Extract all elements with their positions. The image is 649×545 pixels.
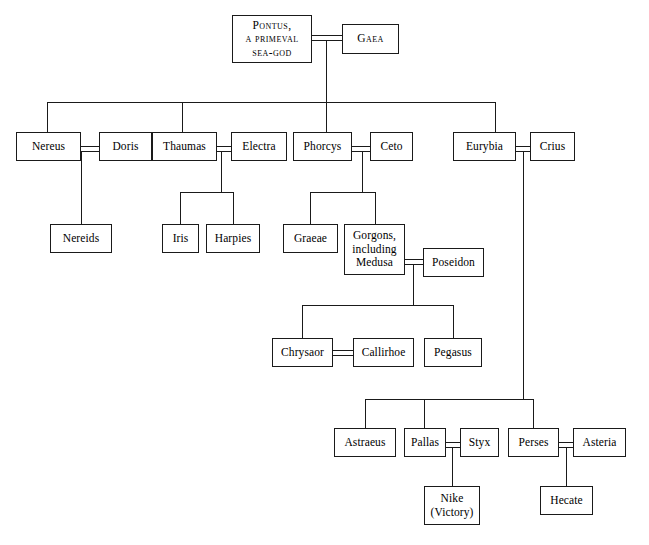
marriage-connector-chrysaor-callirhoe	[333, 350, 353, 356]
node-perses[interactable]: Perses	[508, 428, 559, 457]
node-phorcys[interactable]: Phorcys	[293, 132, 352, 161]
descent-drop-iris	[180, 192, 181, 224]
marriage-connector-phorcys-ceto	[352, 146, 370, 152]
node-pontus[interactable]: Pontus, a primeval sea-god	[232, 15, 312, 63]
descent-stem-phorcys-ceto	[362, 152, 363, 192]
node-asteria[interactable]: Asteria	[573, 428, 626, 457]
marriage-connector-pallas-styx	[446, 442, 460, 448]
node-nereus[interactable]: Nereus	[16, 132, 81, 161]
descent-bus-thaumas-electra	[180, 192, 234, 193]
descent-drop-nereus	[47, 102, 48, 132]
descent-stem-thaumas-electra	[221, 152, 222, 192]
node-iris[interactable]: Iris	[162, 224, 199, 253]
descent-drop-thaumas	[182, 102, 183, 132]
descent-drop-harpies	[233, 192, 234, 224]
marriage-connector-pontus-gaea	[312, 35, 342, 41]
node-styx[interactable]: Styx	[460, 428, 499, 457]
descent-stem-eurybia-crius	[523, 152, 524, 399]
descent-drop-eurybia	[495, 102, 496, 132]
descent-drop-graeae	[310, 192, 311, 224]
descent-drop-gorgons	[375, 192, 376, 224]
descent-stem-nereus-doris	[81, 152, 82, 224]
node-nike[interactable]: Nike (Victory)	[424, 486, 480, 525]
node-doris[interactable]: Doris	[99, 132, 152, 161]
node-harpies[interactable]: Harpies	[206, 224, 260, 253]
descent-drop-perses	[533, 399, 534, 428]
descent-bus-eurybia-crius	[365, 399, 534, 400]
descent-bus-generation-2	[47, 102, 496, 103]
descent-stem-pontus-gaea	[326, 41, 327, 103]
descent-drop-pallas	[424, 399, 425, 428]
marriage-connector-gorgons-poseidon	[405, 259, 423, 265]
marriage-connector-thaumas-electra	[217, 146, 231, 152]
marriage-connector-nereus-doris	[81, 146, 99, 152]
node-gorgons[interactable]: Gorgons, including Medusa	[344, 224, 405, 275]
descent-bus-phorcys-ceto	[310, 192, 376, 193]
node-pallas[interactable]: Pallas	[404, 428, 446, 457]
node-ceto[interactable]: Ceto	[370, 132, 413, 161]
descent-stem-gorgons-poseidon	[413, 265, 414, 305]
node-astraeus[interactable]: Astraeus	[334, 428, 396, 457]
node-callirhoe[interactable]: Callirhoe	[353, 338, 414, 367]
genealogy-diagram: Pontus, a primeval sea-god Gaea Nereus D…	[0, 0, 649, 545]
node-gaea[interactable]: Gaea	[342, 24, 399, 54]
descent-stem-perses-asteria	[566, 448, 567, 486]
node-electra[interactable]: Electra	[231, 132, 287, 161]
descent-drop-pegasus	[453, 305, 454, 338]
descent-drop-chrysaor	[302, 305, 303, 338]
descent-stem-pallas-styx	[452, 448, 453, 486]
node-crius[interactable]: Crius	[530, 132, 575, 161]
marriage-connector-perses-asteria	[559, 442, 573, 448]
node-graeae[interactable]: Graeae	[283, 224, 338, 253]
node-poseidon[interactable]: Poseidon	[423, 248, 484, 277]
node-hecate[interactable]: Hecate	[540, 486, 593, 515]
node-chrysaor[interactable]: Chrysaor	[272, 338, 333, 367]
node-thaumas[interactable]: Thaumas	[152, 132, 217, 161]
descent-bus-gorgons-poseidon	[302, 305, 454, 306]
descent-drop-phorcys	[326, 102, 327, 132]
descent-drop-astraeus	[365, 399, 366, 428]
node-pegasus[interactable]: Pegasus	[424, 338, 482, 367]
marriage-connector-eurybia-crius	[516, 146, 530, 152]
node-eurybia[interactable]: Eurybia	[453, 132, 516, 161]
node-nereids[interactable]: Nereids	[50, 224, 112, 253]
